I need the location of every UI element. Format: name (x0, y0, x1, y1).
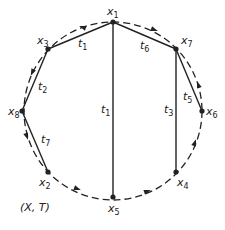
node-x8 (19, 108, 24, 113)
arrow-icon (78, 24, 86, 31)
edge-label: t2 (38, 80, 47, 95)
node-label-x7: x7 (180, 34, 193, 49)
node-label-x3: x3 (36, 34, 49, 49)
node-label-x5: x5 (107, 202, 120, 217)
node-label-x4: x4 (176, 176, 189, 191)
node-x5 (110, 194, 115, 199)
edge-label: t3 (164, 103, 173, 118)
node-x7 (173, 46, 178, 51)
arrow-icon (195, 80, 202, 88)
edge-label: t5 (183, 90, 192, 105)
node-x4 (173, 169, 178, 174)
arrow-icon (191, 138, 198, 146)
node-label-x6: x6 (205, 105, 218, 120)
node-x6 (199, 108, 204, 113)
node-label-x1: x1 (106, 5, 119, 20)
diagram-caption: (X, T) (20, 201, 50, 214)
node-label-x8: x8 (7, 105, 20, 120)
edge-label: t1 (78, 37, 87, 52)
node-label-x2: x2 (38, 176, 51, 191)
arrow-icon (150, 26, 158, 33)
node-x1 (110, 19, 115, 24)
arrow-icon (23, 132, 30, 140)
edge-label: t7 (41, 133, 50, 148)
edge-label: t6 (140, 39, 149, 54)
edge-label: t1 (101, 103, 110, 118)
edge-x3-x8 (22, 49, 48, 111)
topological-graph-diagram: t1t1t2t7t6t3t5x1x3x7x8x6x2x4x5 (X, T) (0, 0, 225, 230)
node-x2 (45, 169, 50, 174)
